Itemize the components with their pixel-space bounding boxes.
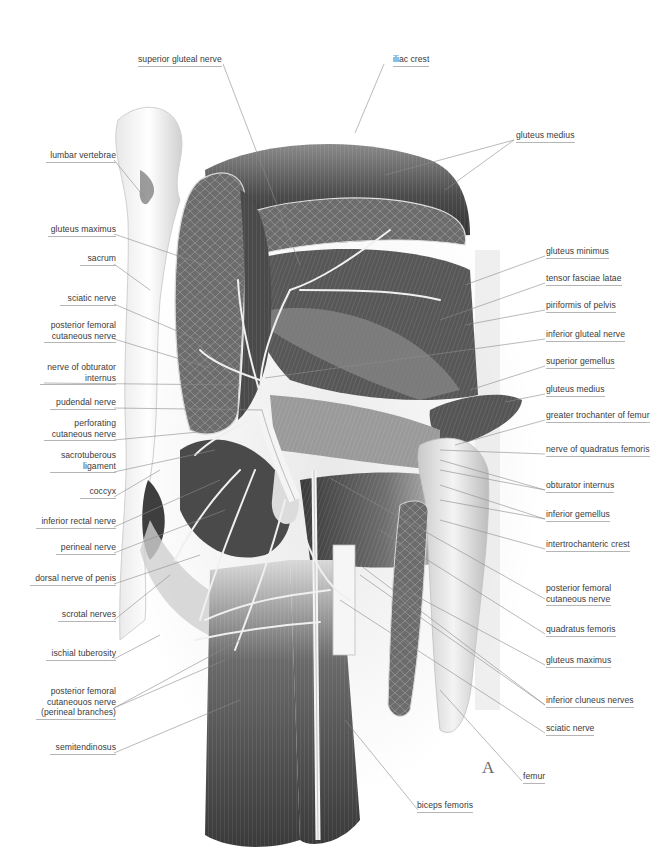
label-inferior-rectal-nerve: inferior rectal nerve (36, 516, 116, 529)
label-gluteus-maximus: gluteus maximus (48, 224, 116, 237)
label-gluteus-minimus: gluteus minimus (546, 246, 609, 259)
label-iliac-crest: iliac crest (393, 54, 429, 67)
label-sciatic-nerve: sciatic nerve (60, 293, 116, 306)
label-coccyx: coccyx (80, 486, 116, 499)
label-intertrochanteric-crest: intertrochanteric crest (546, 539, 630, 552)
label-semitendinosus: semitendinosus (50, 742, 116, 755)
label-greater-trochanter-of-femur: greater trochanter of femur (546, 410, 650, 423)
label-femur: femur (523, 771, 545, 784)
label-tensor-fasciae-latae: tensor fasciae latae (546, 273, 622, 286)
label-nerve-of-quadratus-femoris: nerve of quadratus femoris (546, 444, 650, 457)
label-posterior-femoral-cutaneous-nerve-right: posterior femoralcutaneous nerve (546, 583, 611, 606)
label-superior-gluteal-nerve: superior gluteal nerve (138, 54, 222, 67)
label-perineal-nerve: perineal nerve (56, 542, 116, 555)
label-gluteus-medius-top: gluteus medius (516, 130, 575, 143)
label-superior-gemellus: superior gemellus (546, 356, 615, 369)
label-lumbar-vertebrae: lumbar vertebrae (46, 150, 116, 163)
label-nerve-of-obturator-internus: nerve of obturatorinternus (40, 362, 116, 385)
label-obturator-internus: obturator internus (546, 480, 614, 493)
label-ischial-tuberosity: ischial tuberosity (46, 648, 116, 661)
anatomy-figure: superior gluteal nerve iliac crest lumba… (0, 0, 665, 853)
label-piriformis-of-pelvis: piriformis of pelvis (546, 300, 616, 313)
label-inferior-cluneus-nerves: inferior cluneus nerves (546, 695, 634, 708)
label-perforating-cutaneous-nerve: perforatingcutaneous nerve (44, 418, 116, 441)
label-pudendal-nerve: pudendal nerve (50, 397, 116, 410)
label-dorsal-nerve-of-penis: dorsal nerve of penis (30, 573, 116, 586)
label-posterior-femoral-cutaneous-nerve-perineal: posterior femoralcutaneouos nerve(perine… (36, 686, 116, 720)
label-inferior-gemellus: inferior gemellus (546, 509, 610, 522)
label-quadratus-femoris: quadratus femoris (546, 624, 616, 637)
label-sacrum: sacrum (80, 253, 116, 266)
label-scrotal-nerves: scrotal nerves (58, 609, 116, 622)
label-biceps-femoris: biceps femoris (417, 800, 473, 813)
label-sciatic-nerve-right: sciatic nerve (546, 723, 594, 736)
plate-letter: A (482, 758, 494, 778)
label-posterior-femoral-cutaneous-nerve: posterior femoralcutaneous nerve (44, 320, 116, 343)
label-sacrotuberous-ligament: sacrotuberousligament (50, 450, 116, 473)
label-gluteus-medius-lower: gluteus medius (546, 384, 605, 397)
label-gluteus-maximus-right: gluteus maximus (546, 655, 611, 668)
label-inferior-gluteal-nerve: inferior gluteal nerve (546, 329, 625, 342)
